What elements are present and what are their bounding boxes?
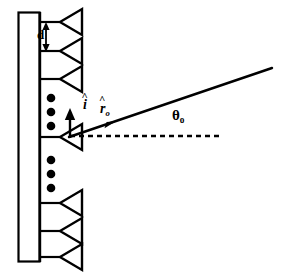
caret-accent-icon: ^: [82, 91, 88, 102]
ground-plane-rectangle: [19, 13, 40, 262]
spacing-label: d: [37, 28, 44, 41]
horn-triangle-icon: [60, 218, 82, 244]
i-hat-label: ^ i: [83, 98, 87, 112]
horn-triangle-icon: [60, 9, 82, 35]
antenna-element-5: [40, 190, 82, 216]
horn-triangle-icon: [60, 38, 82, 64]
theta-symbol: θ: [172, 107, 180, 123]
horn-triangle-icon: [60, 244, 82, 270]
i-hat-glyph-group: ^ i: [83, 98, 87, 112]
antenna-element-7: [40, 244, 82, 270]
r-hat-subscript: o: [105, 108, 109, 118]
vertical-ellipsis-upper: [47, 94, 56, 131]
antenna-element-3: [40, 66, 82, 92]
antenna-element-6: [40, 218, 82, 244]
r-hat-o-label: ^ r o: [100, 102, 110, 116]
vertical-ellipsis-lower: [47, 156, 56, 193]
horn-triangle-icon: [60, 66, 82, 92]
caret-accent-icon: ^: [99, 94, 105, 105]
horn-triangle-icon: [60, 190, 82, 216]
antenna-element-4-origin: [40, 124, 82, 150]
theta-subscript: o: [180, 115, 185, 125]
figure-canvas: d ^ i ^ r o θo: [0, 0, 284, 274]
theta-o-label: θo: [172, 108, 185, 123]
